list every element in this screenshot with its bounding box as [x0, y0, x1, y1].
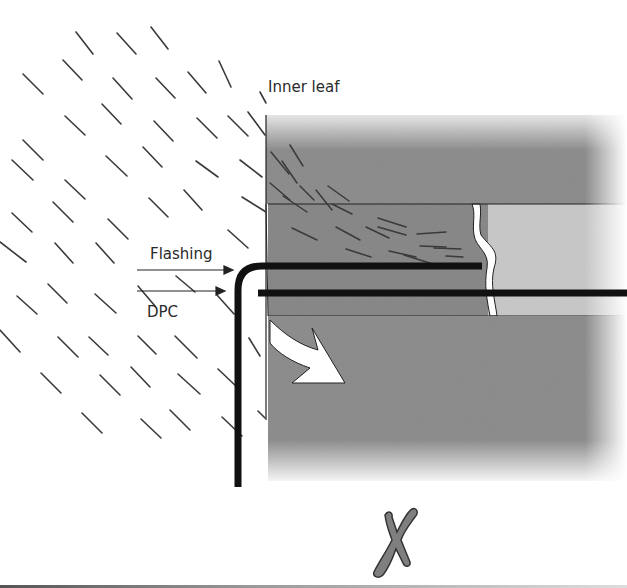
wall-course-band: [268, 204, 627, 316]
rain-streaks: [0, 27, 266, 438]
label-pointer-arrows: [137, 266, 233, 295]
flashing-label: Flashing: [150, 245, 213, 263]
inner-leaf-label: Inner leaf: [268, 78, 339, 96]
dpc-label: DPC: [147, 303, 178, 321]
incorrect-cross-icon: [374, 509, 417, 578]
